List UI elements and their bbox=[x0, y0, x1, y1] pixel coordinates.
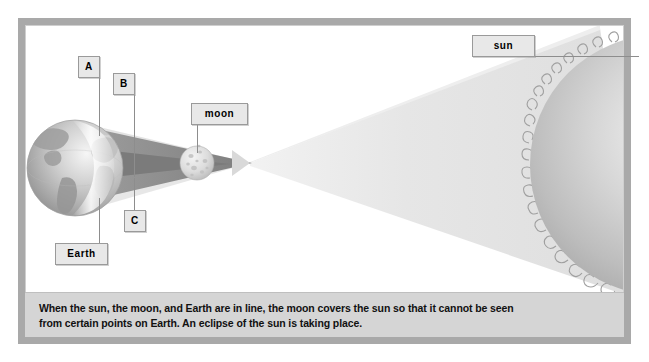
eclipse-scene-svg bbox=[25, 25, 624, 292]
leader-line-a bbox=[99, 78, 100, 136]
label-moon[interactable]: moon bbox=[191, 103, 248, 125]
leader-line-sun bbox=[535, 56, 639, 57]
diagram-caption: When the sun, the moon, and Earth are in… bbox=[25, 292, 624, 337]
label-earth-text: Earth bbox=[67, 249, 96, 259]
leader-line-c bbox=[134, 178, 135, 210]
beam-tail-upper bbox=[232, 150, 250, 176]
label-a-text: A bbox=[85, 62, 93, 72]
eclipse-diagram-page: A B C Earth moon sun When the sun, the m… bbox=[0, 0, 649, 362]
earth-body bbox=[27, 120, 123, 216]
label-moon-text: moon bbox=[205, 109, 235, 119]
leader-line-b bbox=[134, 95, 135, 177]
caption-line-1: When the sun, the moon, and Earth are in… bbox=[39, 301, 612, 316]
label-earth[interactable]: Earth bbox=[55, 243, 108, 265]
label-sun-text: sun bbox=[494, 41, 514, 51]
diagram-artwork bbox=[25, 25, 624, 292]
label-b-text: B bbox=[120, 79, 128, 89]
leader-line-earth bbox=[99, 198, 100, 244]
label-c-text: C bbox=[131, 216, 139, 226]
label-c[interactable]: C bbox=[124, 210, 146, 232]
label-a[interactable]: A bbox=[78, 56, 100, 78]
leader-line-moon bbox=[197, 125, 198, 153]
label-sun[interactable]: sun bbox=[472, 35, 535, 57]
label-b[interactable]: B bbox=[113, 73, 135, 95]
caption-line-2: from certain points on Earth. An eclipse… bbox=[39, 316, 612, 331]
